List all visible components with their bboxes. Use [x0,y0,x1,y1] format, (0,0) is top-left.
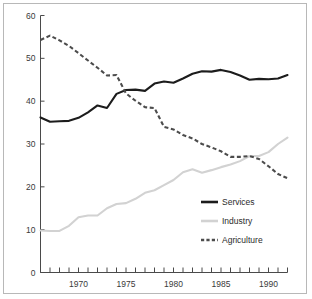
legend-label-services: Services [222,197,255,207]
legend-label-agriculture: Agriculture [222,235,263,245]
x-axis-tick-label: 1985 [212,279,231,289]
y-axis-tick-label: 30 [26,139,36,149]
y-axis-tick-label: 40 [26,96,36,106]
y-axis-tick-label: 50 [26,53,36,63]
series-line-agriculture [41,36,288,179]
x-axis-tick-label: 1975 [117,279,136,289]
line-chart: 010203040506019701975198019851990Service… [0,0,312,299]
y-axis-tick-label: 20 [26,182,36,192]
y-axis-tick-label: 0 [31,268,36,278]
legend-label-industry: Industry [222,216,253,226]
y-axis-tick-label: 60 [26,11,36,21]
x-axis-tick-label: 1980 [164,279,183,289]
chart-container: 010203040506019701975198019851990Service… [0,0,312,299]
x-axis-tick-label: 1990 [259,279,278,289]
x-axis-tick-label: 1970 [69,279,88,289]
series-line-services [41,70,288,122]
y-axis-tick-label: 10 [26,225,36,235]
